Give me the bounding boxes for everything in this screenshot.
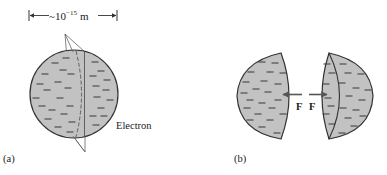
electron-label: Electron xyxy=(116,120,152,131)
panel-b: F F (b) xyxy=(234,53,373,165)
electron-self-energy-diagram: ~10−15m Electron (a) xyxy=(0,0,387,175)
scale-label: ~10−15m xyxy=(49,9,89,22)
force-label-left: F xyxy=(296,101,302,112)
panel-a: ~10−15m Electron (a) xyxy=(3,9,152,165)
panel-a-label: (a) xyxy=(3,153,15,165)
scale-bar: ~10−15m xyxy=(29,9,117,22)
force-label-right: F xyxy=(309,101,315,112)
electron-sphere xyxy=(30,50,118,138)
panel-b-label: (b) xyxy=(234,153,247,165)
left-hemisphere xyxy=(237,53,289,139)
